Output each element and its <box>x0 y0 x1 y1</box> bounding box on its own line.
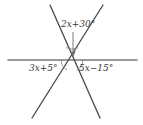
right-angle-label: 5x−15° <box>79 64 113 73</box>
top-angle-label: 2x+30° <box>61 20 95 29</box>
angle-diagram: 2x+30° 3x+5° 5x−15° <box>0 0 143 125</box>
leader-arrow-icon <box>71 32 76 57</box>
left-angle-label: 3x+5° <box>29 64 58 73</box>
left-angle-arc <box>61 60 67 70</box>
